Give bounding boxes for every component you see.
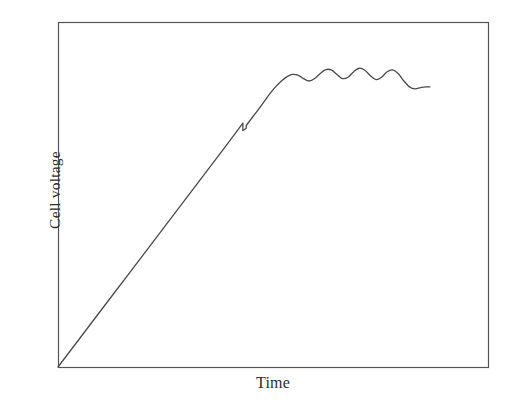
plot-background [59,23,488,367]
plot-svg [0,0,506,411]
x-axis-label: Time [58,374,488,392]
y-axis-label: Cell voltage [46,120,64,260]
figure-container: Cell voltage Time [0,0,506,411]
